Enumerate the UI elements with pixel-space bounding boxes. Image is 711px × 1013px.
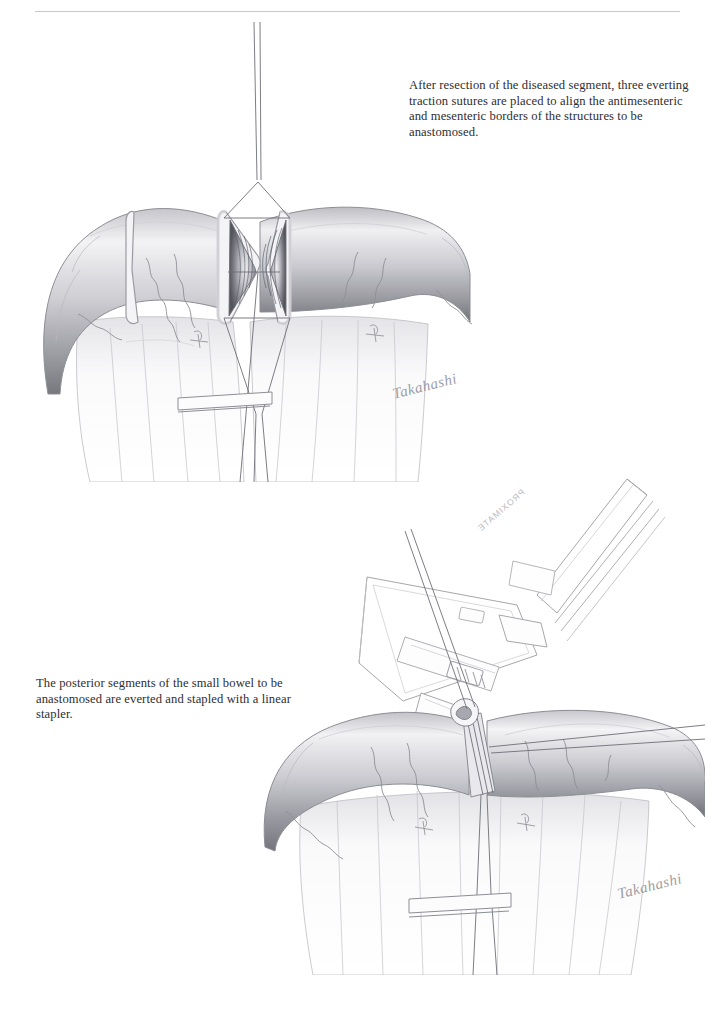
everted-lumen-proximal: [218, 211, 260, 323]
page-canvas: PROXIMATE After resection of the disease…: [0, 0, 711, 1013]
header-rule: [35, 11, 680, 12]
caption-bottom: The posterior segments of the small bowe…: [36, 676, 312, 723]
running-header: [330, 0, 450, 6]
caption-top: After resection of the diseased segment,…: [409, 78, 689, 140]
